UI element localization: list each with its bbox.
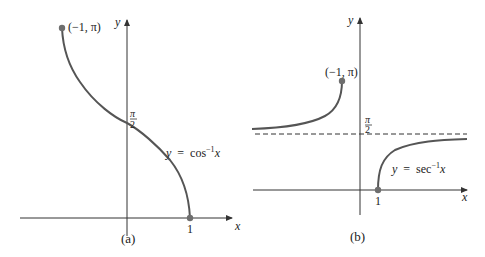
endpoint-b-right — [375, 187, 381, 193]
x-axis-label-a: x — [234, 219, 241, 233]
caption-b: (b) — [350, 229, 365, 244]
y-tick-pi-over-2-a: π 2 — [130, 108, 137, 130]
svg-text:2: 2 — [130, 119, 135, 130]
y-axis-label-a: y — [114, 15, 121, 29]
function-label-a: y = cos−1x — [165, 145, 221, 160]
arccos-curve — [62, 28, 190, 218]
panel-a: (−1, π) y x 1 π 2 y = cos−1x (a) — [20, 15, 241, 246]
svg-text:π: π — [130, 108, 136, 119]
function-label-b: y = sec−1x — [391, 161, 446, 176]
y-tick-pi-over-2-b: π 2 — [365, 114, 372, 135]
point-label-a: (−1, π) — [68, 20, 101, 34]
panel-b: (−1, π) y x 1 π 2 y = sec−1x (b) — [252, 13, 468, 244]
x-axis-label-b: x — [461, 190, 468, 204]
endpoint-a-right — [187, 215, 193, 221]
figure: (−1, π) y x 1 π 2 y = cos−1x (a) (−1, π)… — [0, 0, 485, 257]
caption-a: (a) — [121, 231, 135, 246]
x-tick-1-a: 1 — [187, 222, 193, 236]
y-axis-label-b: y — [347, 13, 354, 27]
x-tick-1-b: 1 — [375, 194, 381, 208]
point-label-b: (−1, π) — [325, 65, 358, 79]
arcsec-left-branch — [252, 81, 342, 129]
svg-text:2: 2 — [365, 124, 370, 135]
endpoint-a-left — [59, 25, 65, 31]
